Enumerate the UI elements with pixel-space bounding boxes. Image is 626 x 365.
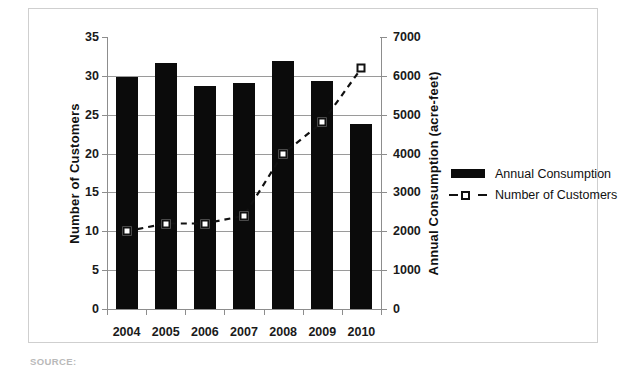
y-axis-left-tick-label: 30 xyxy=(53,69,99,83)
x-axis-tick xyxy=(185,309,186,315)
y-axis-left-tick-label: 35 xyxy=(53,30,99,44)
y-axis-right-tick xyxy=(380,154,387,155)
y-axis-right-line xyxy=(381,37,382,309)
y-axis-right-tick xyxy=(380,270,387,271)
line-marker xyxy=(240,211,249,220)
line-marker xyxy=(122,227,131,236)
y-axis-right-tick-label: 0 xyxy=(393,302,439,316)
y-axis-right-tick xyxy=(380,76,387,77)
legend-dashed-line-marker-icon xyxy=(448,188,488,202)
y-axis-right-tick-label: 1000 xyxy=(393,263,439,277)
line-series-number-of-customers xyxy=(107,37,381,309)
x-axis-line xyxy=(107,309,382,310)
y-axis-right-tick xyxy=(380,231,387,232)
legend-label-annual-consumption: Annual Consumption xyxy=(495,167,611,181)
line-marker xyxy=(200,219,209,228)
line-marker xyxy=(318,118,327,127)
y-axis-left-tick-label: 15 xyxy=(53,185,99,199)
y-axis-left-tick-label: 0 xyxy=(53,302,99,316)
legend-item-annual-consumption: Annual Consumption xyxy=(448,163,617,184)
x-axis-tick xyxy=(342,309,343,315)
x-axis-tick-label: 2010 xyxy=(338,325,384,339)
x-axis-tick xyxy=(264,309,265,315)
line-marker xyxy=(357,64,366,73)
y-axis-right-title-text: Annual Consumption (acre-feet) xyxy=(427,71,442,275)
line-marker xyxy=(161,219,170,228)
legend-label-number-of-customers: Number of Customers xyxy=(495,188,617,202)
x-axis-tick xyxy=(381,309,382,315)
customers-dashed-polyline xyxy=(127,68,362,231)
y-axis-right-tick-label: 4000 xyxy=(393,147,439,161)
source-caption: SOURCE: xyxy=(30,356,77,365)
y-axis-right-tick-label: 7000 xyxy=(393,30,439,44)
x-axis-tick xyxy=(224,309,225,315)
chart-legend: Annual Consumption Number of Customers xyxy=(448,163,617,205)
plot-area: 35302520151050 7000600050004000300020001… xyxy=(107,37,381,309)
legend-item-number-of-customers: Number of Customers xyxy=(448,184,617,205)
y-axis-right-tick-label: 3000 xyxy=(393,185,439,199)
x-axis-tick xyxy=(303,309,304,315)
y-axis-left-title-text: Number of Customers xyxy=(67,103,82,243)
y-axis-left-tick-label: 25 xyxy=(53,108,99,122)
y-axis-right-tick xyxy=(380,192,387,193)
y-axis-right-tick xyxy=(380,37,387,38)
x-axis-tick xyxy=(107,309,108,315)
y-axis-right-tick-label: 5000 xyxy=(393,108,439,122)
line-marker xyxy=(279,149,288,158)
y-axis-right-tick-label: 2000 xyxy=(393,224,439,238)
y-axis-right-tick xyxy=(380,115,387,116)
x-axis-tick xyxy=(146,309,147,315)
y-axis-left-tick-label: 20 xyxy=(53,147,99,161)
legend-bar-swatch-icon xyxy=(448,167,488,181)
y-axis-left-tick-label: 10 xyxy=(53,224,99,238)
y-axis-left-tick-label: 5 xyxy=(53,263,99,277)
y-axis-right-tick-label: 6000 xyxy=(393,69,439,83)
